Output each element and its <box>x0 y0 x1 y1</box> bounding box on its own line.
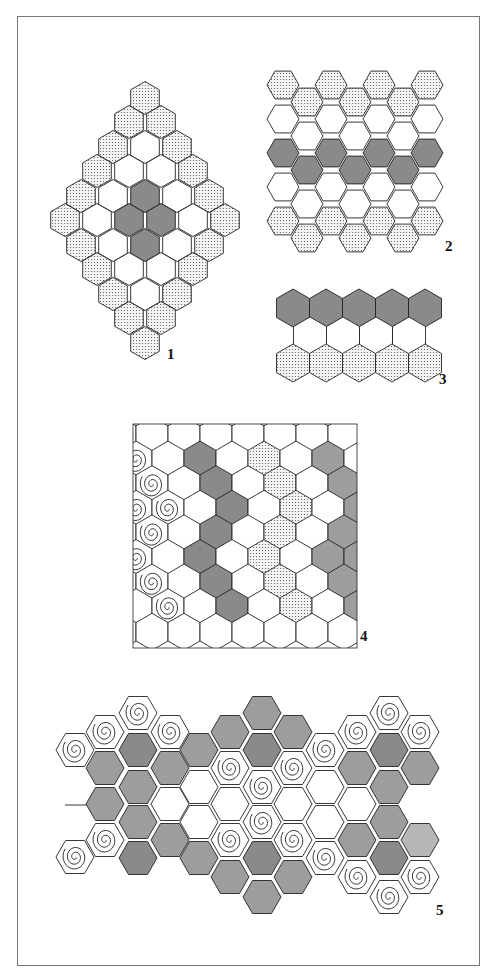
hexagon-white <box>360 515 392 552</box>
figure-4-zigzag-pattern <box>104 417 408 651</box>
hexagon-white <box>104 564 136 601</box>
hexagon-dense <box>401 752 439 785</box>
hexagon-dense <box>211 861 249 894</box>
hexagon-gray <box>411 139 443 167</box>
hexagon-white <box>291 122 323 150</box>
hexagon-white <box>387 122 419 150</box>
hexagon-dense <box>86 752 124 785</box>
hexagon-white <box>267 105 299 133</box>
hexagon-finedense <box>401 824 439 857</box>
hexagon-stipple <box>387 88 419 116</box>
hexagon-stipple <box>387 224 419 252</box>
hexagon-white <box>306 806 344 839</box>
hexagon-gray <box>370 842 408 875</box>
hexagon-white <box>360 564 392 601</box>
hexagon-dense <box>338 752 376 785</box>
hexagon-dense <box>243 881 281 914</box>
hexagon-dense <box>119 771 157 804</box>
figure-4-label: 4 <box>360 628 368 645</box>
hexagon-dense <box>243 697 281 730</box>
hexagon-white <box>376 589 408 626</box>
hexagon-white <box>104 466 136 503</box>
hexagon-dense <box>370 806 408 839</box>
hexagon-white <box>104 515 136 552</box>
hexagon-white <box>306 771 344 804</box>
hexagon-dense <box>370 771 408 804</box>
hexagon-stipple <box>315 71 347 99</box>
hexagon-stipple <box>363 207 395 235</box>
hexagon-white <box>387 190 419 218</box>
hexagon-white <box>376 490 408 527</box>
hexagon-white <box>363 173 395 201</box>
hexagon-dense <box>119 806 157 839</box>
hexagon-gray <box>363 139 395 167</box>
hexagon-white <box>315 173 347 201</box>
hexagon-patterns-canvas <box>0 0 487 975</box>
hexagon-white <box>211 788 249 821</box>
hexagon-white <box>411 105 443 133</box>
hexagon-stipple <box>339 224 371 252</box>
hexagon-gray <box>119 842 157 875</box>
hexagon-stipple <box>291 224 323 252</box>
hexagon-gray <box>315 139 347 167</box>
hexagon-stipple <box>267 71 299 99</box>
hexagon-dense <box>86 788 124 821</box>
hexagon-white <box>315 105 347 133</box>
hexagon-white <box>360 417 392 454</box>
hexagon-white <box>104 613 136 650</box>
figure-2-label: 2 <box>445 238 453 255</box>
hexagon-white <box>363 105 395 133</box>
hexagon-stipple <box>315 207 347 235</box>
hexagon-stipple <box>363 71 395 99</box>
hexagon-white <box>411 173 443 201</box>
hexagon-dense <box>338 824 376 857</box>
hexagon-dense <box>274 861 312 894</box>
hexagon-white <box>291 190 323 218</box>
hexagon-white <box>338 788 376 821</box>
figure-3-label: 3 <box>439 371 447 388</box>
hexagon-white <box>267 173 299 201</box>
hexagon-white <box>104 417 136 454</box>
hexagon-gray <box>243 842 281 875</box>
hexagon-gray <box>291 156 323 184</box>
hexagon-stipple <box>411 71 443 99</box>
hexagon-gray <box>387 156 419 184</box>
hexagon-gray <box>339 156 371 184</box>
hexagon-white <box>360 466 392 503</box>
hexagon-gray <box>370 734 408 767</box>
hexagon-stipple <box>411 207 443 235</box>
hexagon-white <box>376 540 408 577</box>
figure-5-spiral-pattern <box>56 697 439 914</box>
hexagon-white <box>339 122 371 150</box>
hexagon-stipple <box>291 88 323 116</box>
hexagon-stipple <box>339 88 371 116</box>
figure-5-label: 5 <box>436 902 444 919</box>
hexagon-white <box>274 788 312 821</box>
hexagon-dense <box>211 716 249 749</box>
hexagon-gray <box>243 734 281 767</box>
hexagon-stipple <box>267 207 299 235</box>
figure-1-diamond-pattern <box>51 82 240 360</box>
figure-2-band-pattern <box>267 71 443 252</box>
figure-1-label: 1 <box>167 346 175 363</box>
hexagon-gray <box>267 139 299 167</box>
figure-3-three-row-pattern <box>277 289 442 382</box>
hexagon-dense <box>274 716 312 749</box>
hexagon-white <box>339 190 371 218</box>
hexagon-gray <box>119 734 157 767</box>
hexagon-white <box>376 441 408 478</box>
